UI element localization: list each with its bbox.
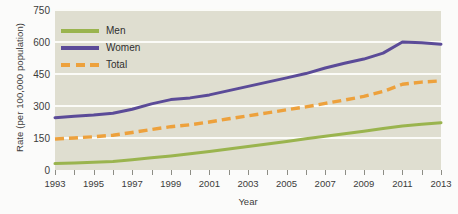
x-axis-tick-mark bbox=[171, 170, 172, 175]
legend-label-men: Men bbox=[106, 26, 125, 36]
y-axis-tick-label: 450 bbox=[0, 69, 50, 80]
legend-swatch-total bbox=[61, 63, 99, 67]
chart-legend: Men Women Total bbox=[61, 24, 140, 71]
legend-item-women: Women bbox=[61, 41, 140, 54]
x-axis-tick-mark bbox=[248, 170, 249, 175]
x-axis-tick-mark bbox=[287, 170, 288, 175]
x-axis-title: Year bbox=[55, 196, 441, 207]
x-axis-tick-mark bbox=[74, 170, 75, 175]
legend-label-total: Total bbox=[106, 60, 127, 70]
y-axis-tick-label: 600 bbox=[0, 37, 50, 48]
legend-swatch-women bbox=[61, 46, 99, 50]
legend-item-men: Men bbox=[61, 24, 140, 37]
legend-swatch-men bbox=[61, 29, 99, 33]
x-axis-tick-mark bbox=[55, 170, 56, 175]
legend-label-women: Women bbox=[106, 43, 140, 53]
x-axis-tick-label: 2009 bbox=[353, 178, 374, 189]
y-axis-tick-label: 750 bbox=[0, 5, 50, 16]
x-axis-tick-mark bbox=[113, 170, 114, 175]
x-axis-tick-mark bbox=[229, 170, 230, 175]
x-axis-tick-mark bbox=[190, 170, 191, 175]
series-line-men bbox=[55, 123, 441, 164]
x-axis-tick-mark bbox=[325, 170, 326, 175]
x-axis-tick-label: 1999 bbox=[160, 178, 181, 189]
x-axis-tick-mark bbox=[306, 170, 307, 175]
x-axis-tick-mark bbox=[383, 170, 384, 175]
x-axis-tick-label: 2013 bbox=[430, 178, 451, 189]
x-axis-tick-label: 2011 bbox=[392, 178, 412, 189]
x-axis-tick-label: 2007 bbox=[315, 178, 336, 189]
y-axis-tick-label: 300 bbox=[0, 101, 50, 112]
x-axis-tick-mark bbox=[267, 170, 268, 175]
y-axis-title: Rate (per 100,000 population) bbox=[14, 3, 25, 173]
x-axis-tick-mark bbox=[345, 170, 346, 175]
x-axis-tick-label: 2001 bbox=[199, 178, 220, 189]
x-axis-tick-mark bbox=[209, 170, 210, 175]
x-axis-tick-label: 1995 bbox=[83, 178, 104, 189]
x-axis-tick-label: 1997 bbox=[122, 178, 143, 189]
x-axis-tick-mark bbox=[364, 170, 365, 175]
x-axis-tick-mark bbox=[422, 170, 423, 175]
x-axis-tick-label: 2005 bbox=[276, 178, 297, 189]
x-axis-tick-mark bbox=[441, 170, 442, 175]
legend-item-total: Total bbox=[61, 58, 140, 71]
y-axis-tick-label: 150 bbox=[0, 133, 50, 144]
x-axis-tick-mark bbox=[402, 170, 403, 175]
x-axis-tick-label: 1993 bbox=[44, 178, 65, 189]
x-axis-tick-label: 2003 bbox=[237, 178, 258, 189]
x-axis-tick-mark bbox=[132, 170, 133, 175]
series-line-total bbox=[55, 81, 441, 139]
chart-figure: Rate (per 100,000 population) 0150300450… bbox=[0, 0, 458, 214]
x-axis-tick-mark bbox=[94, 170, 95, 175]
x-axis-tick-mark bbox=[152, 170, 153, 175]
y-axis-tick-label: 0 bbox=[0, 165, 50, 176]
